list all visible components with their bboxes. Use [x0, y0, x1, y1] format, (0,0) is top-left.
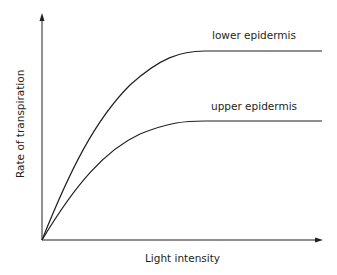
y-axis-label: Rate of transpiration [14, 70, 26, 178]
upper-epidermis-label: upper epidermis [211, 100, 297, 112]
x-axis-label: Light intensity [145, 252, 220, 264]
y-axis-arrow-icon [40, 13, 45, 21]
lower-epidermis-curve [42, 51, 322, 240]
lower-epidermis-label: lower epidermis [212, 29, 296, 41]
x-axis-arrow-icon [315, 238, 323, 243]
transpiration-diagram: lower epidermis upper epidermis Light in… [0, 0, 337, 275]
upper-epidermis-curve [42, 121, 322, 240]
